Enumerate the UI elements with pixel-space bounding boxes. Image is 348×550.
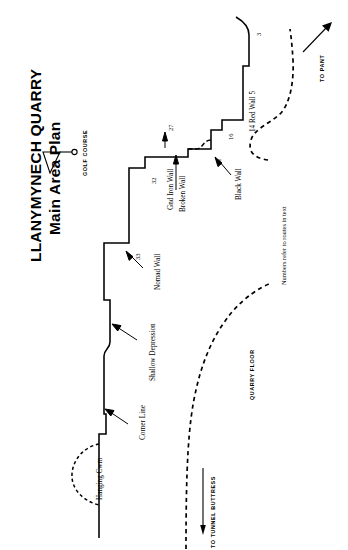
feature-label-nomad-wall: Nomad Wall — [155, 254, 162, 290]
route-number-21: 21 — [216, 158, 223, 165]
to-pant-arrow — [303, 22, 332, 52]
feature-label-corner-line: Corner Line — [140, 405, 147, 440]
plan-linework — [0, 0, 348, 550]
legend-note: Numbers refer to routes in text — [281, 206, 287, 285]
quarry-floor-edge-dashed — [186, 283, 271, 549]
route-number-32: 32 — [151, 177, 158, 184]
feature-label-broken-wall: Broken Wall — [180, 176, 187, 212]
area-label-to-tunnel-buttress: TO TUNNEL BUTTRESS — [211, 476, 216, 548]
hanging-cwm-dashed-loop — [72, 444, 99, 505]
page-title-line1: LLANYMYNECH QUARRY — [28, 69, 44, 262]
feature-label-black-wall: Black Wall — [236, 168, 243, 200]
north-arrow-label: N — [53, 162, 59, 166]
page-title-line2: Main Area Plan — [47, 122, 63, 235]
to-tunnel-buttress-arrow — [200, 468, 206, 535]
feature-label-gnd-iron-wall: Gnd Iron Wall — [168, 169, 175, 210]
area-label-golf-course: GOLF COURSE — [83, 130, 88, 176]
feature-label-shallow-depression: Shallow Depression — [150, 323, 157, 381]
feature-label-red-wall: 14 Red Wall 5 — [250, 91, 257, 132]
area-label-to-pant: TO PANT — [320, 55, 325, 82]
quarry-wall-path — [99, 17, 249, 538]
broken-wall-dashes — [188, 140, 211, 149]
feature-label-hanging-cwm: Hanging Cwm — [97, 458, 104, 500]
area-label-quarry-floor: QUARRY FLOOR — [250, 349, 255, 400]
route-number-3: 3 — [256, 33, 263, 36]
route-number-33: 33 — [135, 253, 142, 260]
route-number-16: 16 — [228, 133, 235, 140]
route-number-27: 27 — [168, 124, 175, 131]
quarry-plan-canvas: LLANYMYNECH QUARRY Main Area Plan N GOLF… — [0, 0, 348, 550]
